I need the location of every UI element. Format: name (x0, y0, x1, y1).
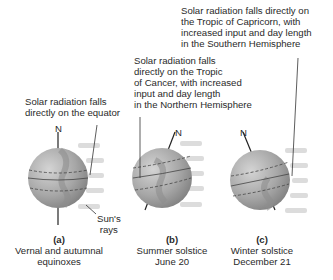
rays-label: Sun's rays (97, 213, 121, 235)
caption-c: (c) Winter solstice December 21 (207, 234, 317, 267)
north-label-c: N (240, 127, 247, 138)
caption-a: (a) Vernal and autumnal equinoxes (4, 234, 114, 267)
annotation-c: Solar radiation falls directly on the Tr… (181, 5, 312, 49)
annotation-b: Solar radiation falls directly on the Tr… (134, 55, 252, 110)
north-label-b: N (175, 127, 182, 138)
globe-c (230, 132, 290, 210)
annotation-a: Solar radiation falls directly on the eq… (25, 96, 120, 118)
north-label-a: N (55, 123, 62, 134)
